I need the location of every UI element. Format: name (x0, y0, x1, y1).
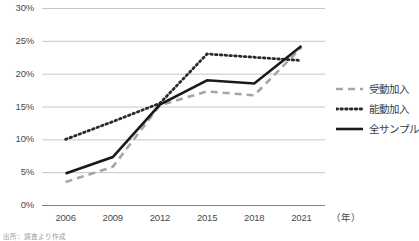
legend-line-swatch-icon (336, 83, 363, 95)
legend-item-label: 能動加入 (369, 103, 409, 115)
y-axis-tick-label: 15% (0, 102, 34, 112)
legend-item-0[interactable]: 受動加入 (336, 82, 409, 96)
gridlines (42, 9, 325, 206)
y-axis-tick-label: 30% (0, 3, 34, 13)
x-axis-tick-label: 2012 (140, 212, 180, 223)
y-axis-tick-label: 25% (0, 36, 34, 46)
y-axis-tick-label: 10% (0, 134, 34, 144)
series-lines (66, 46, 302, 182)
legend-item-2[interactable]: 全サンプル (336, 122, 419, 136)
legend-item-label: 受動加入 (369, 83, 409, 95)
x-axis-tick-label: 2015 (187, 212, 227, 223)
legend-item-label: 全サンプル (369, 123, 419, 135)
x-axis-tick-label: 2021 (281, 212, 321, 223)
x-axis-tick-label: 2006 (46, 212, 86, 223)
x-axis-tick-label: 2018 (234, 212, 274, 223)
source-note: 出所：調査より作成 (3, 231, 66, 241)
series-line-2 (66, 46, 302, 173)
x-axis-unit-label: （年） (331, 212, 360, 223)
y-axis-tick-label: 20% (0, 69, 34, 79)
legend-line-swatch-icon (336, 103, 363, 115)
x-axis-tick-label: 2009 (93, 212, 133, 223)
legend-item-1[interactable]: 能動加入 (336, 102, 409, 116)
legend-line-swatch-icon (336, 123, 363, 135)
y-axis-tick-label: 0% (0, 200, 34, 210)
y-axis-tick-label: 5% (0, 167, 34, 177)
series-line-1 (66, 54, 302, 139)
